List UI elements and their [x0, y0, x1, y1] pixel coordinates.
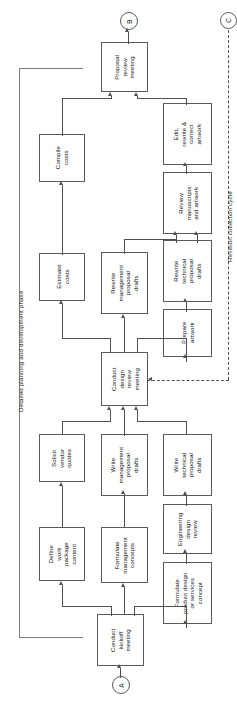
edge-designreview-to-rewrite-mgmt [124, 318, 125, 353]
node-prepare-artwork-label: Prepareartwork [180, 322, 195, 344]
edge-formulate-mgmt-to-write-mgmt [124, 494, 125, 528]
connector-b-label: B [125, 19, 132, 23]
arrowhead-rewrite-tech-in [183, 298, 187, 302]
node-conduct-kickoff-meeting-label: Conductkickoffmeeting [109, 628, 132, 651]
cycle-line-horizontal [147, 380, 229, 381]
edge-rewrite-tech-to-review-ms [197, 235, 198, 243]
node-estimate-costs: Estimatecosts [39, 253, 85, 301]
edge-write-tech-up-v [186, 421, 187, 435]
arrowhead-designreview-in-right [134, 406, 138, 410]
edge-write-mgmt-to-designreview [124, 410, 125, 436]
edge-compile-to-proposal-h [62, 98, 112, 99]
edge-edit-art-to-proposal-h [137, 98, 187, 99]
edge-to-prepare-artwork-v2 [186, 338, 187, 362]
node-write-management-proposal-drafts: Writemanagementproposaldrafts [101, 434, 148, 496]
arrowhead-designreview-in-left [107, 406, 111, 410]
arrowhead-b-in [125, 28, 129, 32]
edge-review-ms-in-left-stub [176, 235, 177, 243]
node-formulate-product-design-concept-label: Formulateproduct designor servicesconcep… [172, 572, 202, 613]
arrowhead-eng-review-in [183, 549, 187, 553]
edge-to-define-wp-v [62, 585, 63, 607]
arrowhead-define-wp-in [59, 581, 63, 585]
edge-rewrite-mgmt-to-review-h [124, 239, 177, 240]
node-formulate-management-concepts: Formulatemanagementconcepts [101, 527, 148, 583]
node-edit-rewrite-correct-artwork: Edit,rewrite &correctartwork [163, 103, 212, 165]
edge-kickoff-branch-left-v [111, 606, 112, 616]
edge-kickoff-to-right-lane-h [134, 606, 187, 607]
arrowhead-solicit-in [59, 482, 63, 486]
connector-c: C [220, 12, 237, 29]
node-solicit-vendor-quotes-label: Solicitvendorquotes [51, 448, 74, 467]
edge-designreview-in-left-v [110, 410, 111, 422]
edge-designreview-out-right-v [137, 338, 138, 353]
edge-write-tech-to-designreview-h [137, 421, 187, 422]
arrowhead-write-mgmt-in [121, 490, 125, 494]
node-review-manuscripts-and-artwork: Reviewmanuscriptsand artwork [163, 172, 212, 234]
edge-estimate-to-compile [62, 185, 63, 255]
edge-solicit-up-v [62, 421, 63, 435]
node-compile-costs: Compilecosts [39, 134, 85, 182]
edge-a-to-kickoff [120, 668, 121, 678]
node-solicit-vendor-quotes: Solicitvendorquotes [39, 434, 85, 482]
edge-proposal-to-b [128, 32, 129, 44]
node-prepare-artwork: Prepareartwork [163, 309, 212, 357]
phase-label: Detailed planning and development phase [17, 291, 24, 412]
node-formulate-product-design-concept: Formulateproduct designor servicesconcep… [163, 562, 212, 624]
edge-compile-up-v [62, 98, 63, 136]
arrowhead-rewrite-mgmt-in [121, 314, 125, 318]
arrowhead-proposal-in-left [108, 92, 112, 96]
node-engineering-design-review-label: Engineeringdesignreview [176, 512, 199, 546]
arrowhead-designreview-in-center [121, 406, 125, 410]
arrowhead-formulate-mgmt-in [121, 583, 125, 587]
node-proposal-review-meeting-label: Proposalreviewmeeting [113, 55, 136, 80]
edge-kickoff-to-formulate-mgmt [124, 587, 125, 615]
phase-bracket-bottom-tick [19, 637, 83, 638]
arrowhead-review-ms-in-left [173, 231, 177, 235]
node-engineering-design-review: Engineeringdesignreview [163, 504, 212, 554]
node-conduct-design-review-meeting: Conductdesignreviewmeeting [101, 352, 148, 406]
node-estimate-costs-label: Estimatecosts [54, 265, 69, 290]
node-conduct-kickoff-meeting: Conductkickoffmeeting [97, 614, 144, 666]
node-write-technical-proposal-drafts: Writetechnicalproposaldrafts [163, 434, 212, 496]
arrowhead-write-tech-in [183, 491, 187, 495]
arrowhead-cycle-into-design-review [148, 377, 152, 381]
edge-prepare-to-rewrite-tech [186, 302, 187, 312]
node-write-management-proposal-drafts-label: Writemanagementproposaldrafts [109, 447, 139, 484]
node-rewrite-management-proposal-drafts-label: Rewritemanagementproposaldrafts [109, 265, 139, 302]
arrowhead-formulate-product-in [183, 620, 187, 624]
node-edit-rewrite-correct-artwork-label: Edit,rewrite &correctartwork [172, 122, 202, 147]
edge-proposal-in-right-v [137, 96, 138, 98]
edge-kickoff-to-left-lane-h [62, 606, 112, 607]
edge-define-wp-to-solicit [62, 486, 63, 528]
node-proposal-review-meeting: Proposalreviewmeeting [101, 42, 148, 92]
node-define-work-package-content: Defineworkpackagecontent [39, 527, 85, 581]
connector-c-label: C [225, 18, 232, 23]
edge-designreview-out-left-v [110, 338, 111, 353]
arrowhead-review-ms-in-right [194, 231, 198, 235]
edge-to-estimate-v [62, 304, 63, 339]
edge-designreview-to-prepare-h [137, 338, 187, 339]
node-compile-costs-label: Compilecosts [54, 146, 69, 169]
edge-designreview-to-estimate-h [62, 338, 111, 339]
arrowhead-compile-in [59, 181, 63, 185]
cycle-label: Revision collection cycle [226, 191, 233, 262]
arrowhead-prepare-artwork-in [183, 354, 187, 358]
edge-eng-review-to-write-tech [186, 495, 187, 506]
node-conduct-design-review-meeting-label: Conductdesignreviewmeeting [109, 367, 139, 390]
node-write-technical-proposal-drafts-label: Writetechnicalproposaldrafts [172, 453, 202, 478]
edge-proposal-in-left-stub [111, 96, 112, 98]
arrowhead-estimate-in [59, 300, 63, 304]
edge-designreview-in-right-v [137, 410, 138, 422]
node-formulate-management-concepts-label: Formulatemanagementconcepts [113, 537, 136, 574]
phase-bracket-top-tick [19, 68, 83, 69]
edge-formulate-product-to-eng-review [186, 553, 187, 564]
node-rewrite-management-proposal-drafts: Rewritemanagementproposaldrafts [101, 252, 148, 314]
arrowhead-edit-art-in [183, 162, 187, 166]
node-rewrite-technical-proposal-drafts-label: Rewritetechnicalproposaldrafts [172, 259, 202, 284]
node-define-work-package-content-label: Defineworkpackagecontent [47, 542, 77, 566]
edge-rewrite-mgmt-up-v [124, 239, 125, 254]
connector-a-label: A [117, 683, 124, 687]
node-review-manuscripts-and-artwork-label: Reviewmanuscriptsand artwork [176, 186, 199, 220]
connector-a: A [112, 676, 130, 694]
edge-review-ms-to-edit-art [186, 166, 187, 174]
